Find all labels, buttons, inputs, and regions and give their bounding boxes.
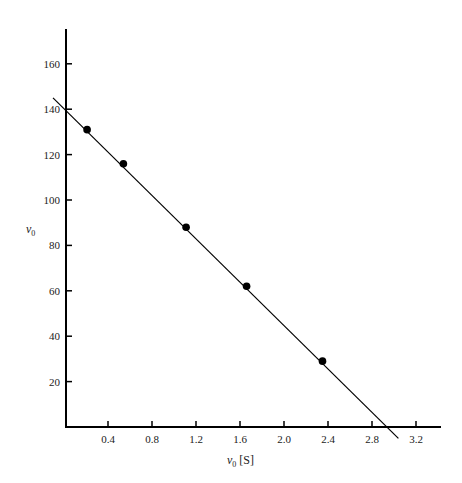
y-axis-ticks: 20406080100120140160 [44, 58, 73, 388]
x-axis-label: v0 [S] [227, 453, 254, 469]
y-axis-label: v0 [26, 222, 35, 238]
y-tick-label: 60 [49, 285, 61, 297]
x-tick-label: 2.4 [321, 433, 335, 445]
x-tick-label: 2.8 [365, 433, 379, 445]
y-tick-label: 20 [49, 376, 61, 388]
x-tick-label: 1.2 [189, 433, 203, 445]
x-tick-label: 0.4 [101, 433, 115, 445]
y-tick-label: 80 [49, 239, 61, 251]
x-tick-label: 0.8 [145, 433, 159, 445]
x-tick-label: 1.6 [233, 433, 247, 445]
y-tick-label: 140 [44, 103, 61, 115]
data-point [182, 223, 190, 231]
x-axis-ticks: 0.40.81.21.62.02.42.83.2 [101, 421, 423, 445]
data-point [120, 160, 128, 168]
data-point [319, 357, 327, 365]
y-tick-label: 120 [44, 149, 61, 161]
fit-line [53, 98, 398, 439]
x-tick-label: 3.2 [409, 433, 423, 445]
y-tick-label: 40 [49, 330, 61, 342]
fit-line-path [53, 98, 398, 439]
data-point [83, 126, 91, 134]
y-tick-label: 160 [44, 58, 61, 70]
chart: 20406080100120140160 0.40.81.21.62.02.42… [0, 0, 462, 483]
x-tick-label: 2.0 [277, 433, 291, 445]
data-points [83, 126, 326, 365]
y-tick-label: 100 [44, 194, 61, 206]
data-point [243, 282, 251, 290]
